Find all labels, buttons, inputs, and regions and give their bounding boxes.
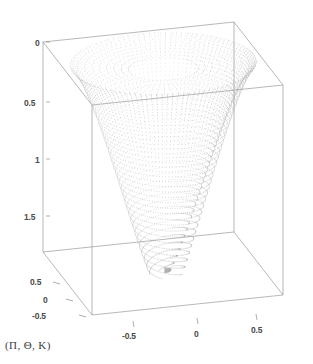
box-edge: [234, 22, 283, 85]
y-axis-tick: [53, 282, 60, 284]
plot-canvas: [0, 0, 313, 364]
box-edge: [43, 42, 92, 105]
x-axis-tick-label: 0.5: [251, 325, 262, 335]
x-axis-tick: [197, 318, 198, 324]
mouth-contour-rings: [70, 33, 257, 95]
surface-dots-layer: [70, 48, 256, 279]
figure-panel: 00.511.50.50-0.5-0.500.5 (Π, Θ, K): [0, 0, 313, 364]
z-axis-tick-label: 1.5: [24, 212, 35, 222]
box-edge: [43, 22, 234, 42]
box-edge: [92, 295, 283, 315]
mouth-ring: [85, 39, 243, 92]
mouth-ring: [77, 36, 249, 93]
box-edge: [234, 232, 283, 295]
y-axis-tick-label: -0.5: [32, 311, 46, 321]
x-axis-tick: [133, 321, 134, 327]
z-axis-tick-label: 1: [35, 155, 40, 165]
riemann-surface-point-cloud: [70, 32, 257, 279]
z-axis-tick-label: 0: [35, 38, 40, 48]
axis-triple-caption: (Π, Θ, K): [5, 339, 51, 351]
x-axis-tick: [256, 314, 257, 320]
mouth-ring: [70, 33, 257, 95]
axis-tick-marks: [46, 42, 257, 327]
y-axis-tick-label: 0: [43, 295, 48, 305]
y-axis-tick: [79, 315, 86, 317]
x-axis-tick-label: -0.5: [122, 331, 136, 341]
z-axis-tick-label: 0.5: [24, 98, 35, 108]
mouth-ring: [128, 57, 199, 81]
y-axis-tick-label: 0.5: [30, 277, 41, 287]
y-axis-tick: [66, 299, 73, 301]
bounding-box-wireframe: [43, 22, 283, 315]
mouth-ring: [92, 42, 235, 90]
x-axis-tick-label: 0: [194, 329, 199, 339]
mouth-ring: [121, 54, 206, 82]
surface-dots-layer: [70, 32, 245, 250]
box-edge: [43, 252, 92, 315]
box-edge: [43, 232, 234, 252]
